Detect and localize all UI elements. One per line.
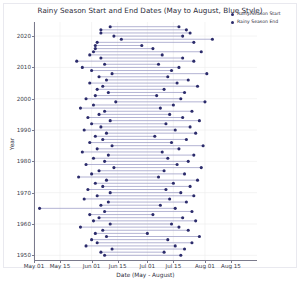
end-marker-2002: [183, 91, 186, 94]
start-marker-2006: [105, 78, 108, 81]
x-tick-label-jun-01: Jun 01: [83, 263, 101, 269]
end-marker-1998: [172, 103, 175, 106]
y-tick-mark-1990: [32, 130, 34, 131]
legend-label: Rainy Season Start: [237, 12, 281, 17]
start-marker-2014: [88, 53, 91, 56]
start-marker-2012: [75, 60, 78, 63]
end-marker-1993: [198, 119, 201, 122]
end-marker-1982: [192, 154, 195, 157]
start-marker-1977: [97, 169, 100, 172]
start-marker-2008: [111, 72, 114, 75]
y-tick-label-1990: 1990: [0, 127, 31, 133]
y-tick-mark-2010: [32, 67, 34, 68]
start-marker-1962: [97, 216, 100, 219]
end-marker-2014: [161, 53, 164, 56]
caption-strip: [0, 276, 300, 294]
y-tick-label-2020: 2020: [0, 33, 31, 39]
end-marker-1987: [185, 138, 188, 141]
start-marker-1950: [103, 254, 106, 257]
end-marker-1969: [192, 194, 195, 197]
end-marker-1951: [163, 251, 166, 254]
legend-item-rainy-season-start[interactable]: Rainy Season Start: [231, 11, 281, 17]
start-marker-1957: [94, 232, 97, 235]
x-tick-mark-may-15: [60, 261, 61, 263]
end-marker-1984: [177, 147, 180, 150]
start-marker-1989: [105, 132, 108, 135]
start-marker-2016: [94, 47, 97, 50]
start-marker-2015: [92, 50, 95, 53]
legend-marker-icon: [231, 13, 234, 16]
start-marker-2020: [112, 35, 115, 38]
start-marker-1967: [107, 201, 110, 204]
end-marker-2020: [181, 35, 184, 38]
y-tick-label-1980: 1980: [0, 158, 31, 164]
start-marker-1994: [86, 116, 89, 119]
x-tick-label-may-01: May 01: [24, 263, 44, 269]
x-axis-spine: [34, 260, 257, 261]
start-marker-1961: [92, 219, 95, 222]
start-marker-1979: [84, 163, 87, 166]
end-marker-2019: [211, 38, 214, 41]
start-marker-1970: [109, 191, 112, 194]
start-marker-2007: [97, 75, 100, 78]
end-marker-2012: [192, 60, 195, 63]
end-marker-1966: [159, 204, 162, 207]
y-tick-mark-2000: [32, 99, 34, 100]
start-marker-1958: [101, 229, 104, 232]
chart-legend: Rainy Season StartRainy Season End: [231, 11, 281, 25]
start-marker-1992: [90, 122, 93, 125]
end-marker-1963: [151, 213, 154, 216]
start-marker-1991: [99, 125, 102, 128]
end-marker-1959: [177, 226, 180, 229]
start-marker-1980: [103, 160, 106, 163]
start-marker-2019: [120, 38, 123, 41]
end-marker-2013: [181, 56, 184, 59]
start-marker-1960: [109, 222, 112, 225]
start-marker-1972: [101, 185, 104, 188]
end-marker-2000: [179, 97, 182, 100]
end-marker-1964: [190, 210, 193, 213]
start-marker-2013: [99, 56, 102, 59]
start-marker-2005: [88, 82, 91, 85]
start-marker-2018: [96, 41, 99, 44]
start-marker-2023: [109, 25, 112, 28]
start-marker-1988: [94, 135, 97, 138]
start-marker-1969: [96, 194, 99, 197]
end-marker-1962: [181, 216, 184, 219]
start-marker-2022: [99, 28, 102, 31]
start-marker-1975: [77, 175, 80, 178]
start-marker-1982: [107, 154, 110, 157]
start-marker-2021: [99, 31, 102, 34]
x-tick-label-may-15: May 15: [50, 263, 70, 269]
end-marker-2023: [177, 25, 180, 28]
x-tick-mark-jun-01: [92, 261, 93, 263]
x-tick-label-jul-01: Jul 01: [140, 263, 156, 269]
start-marker-1993: [109, 119, 112, 122]
start-marker-1966: [99, 204, 102, 207]
start-marker-1998: [92, 103, 95, 106]
end-marker-1953: [174, 244, 177, 247]
legend-item-rainy-season-end[interactable]: Rainy Season End: [231, 19, 281, 25]
start-marker-2003: [96, 88, 99, 91]
start-marker-1959: [79, 226, 82, 229]
start-marker-1973: [94, 182, 97, 185]
x-tick-mark-jun-15: [118, 261, 119, 263]
end-marker-1970: [179, 191, 182, 194]
end-marker-1960: [170, 222, 173, 225]
end-marker-2004: [196, 85, 199, 88]
start-marker-1974: [105, 179, 108, 182]
end-marker-1983: [161, 150, 164, 153]
x-tick-label-jul-15: Jul 15: [166, 263, 182, 269]
start-marker-1955: [90, 238, 93, 241]
start-marker-2017: [94, 44, 97, 47]
end-marker-1965: [174, 207, 177, 210]
start-marker-1987: [101, 138, 104, 141]
end-marker-1952: [183, 247, 186, 250]
start-marker-1976: [90, 172, 93, 175]
end-marker-2018: [192, 41, 195, 44]
end-marker-1978: [200, 166, 203, 169]
end-marker-1999: [203, 100, 206, 103]
start-marker-2011: [103, 63, 106, 66]
plot-area: [34, 22, 257, 260]
y-tick-label-1950: 1950: [0, 252, 31, 258]
